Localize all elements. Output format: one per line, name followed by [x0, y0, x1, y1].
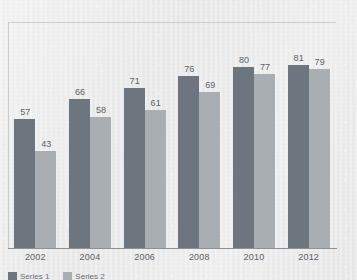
bar-value-label: 76 — [172, 64, 206, 74]
bar-group: 7669 — [178, 22, 220, 248]
legend-label: Series 2 — [75, 272, 104, 280]
bar-value-label: 77 — [248, 62, 282, 72]
category-axis: 200220042006200820102012 — [8, 252, 336, 266]
bar-value-label: 58 — [84, 105, 118, 115]
bar[interactable] — [199, 92, 220, 248]
bar-group: 5743 — [14, 22, 56, 248]
bar[interactable] — [309, 69, 330, 248]
chart-legend: Series 1Series 2 — [8, 272, 105, 280]
bar-group: 7161 — [124, 22, 166, 248]
legend-entry[interactable]: Series 2 — [63, 272, 104, 280]
bar-chart-figure: 574366587161766980778179 200220042006200… — [0, 0, 357, 280]
bar-value-label: 61 — [139, 98, 173, 108]
bar-value-label: 69 — [193, 80, 227, 90]
bar-value-label: 57 — [8, 107, 42, 117]
bar[interactable] — [35, 151, 56, 248]
bar[interactable] — [69, 99, 90, 248]
bar[interactable] — [178, 76, 199, 248]
bars-layer: 574366587161766980778179 — [8, 22, 336, 248]
bar-value-label: 79 — [303, 57, 337, 67]
x-axis-line — [8, 248, 337, 249]
category-tick-label: 2012 — [283, 252, 335, 262]
bar-value-label: 66 — [63, 87, 97, 97]
legend-label: Series 1 — [20, 272, 49, 280]
category-tick-label: 2006 — [119, 252, 171, 262]
bar[interactable] — [124, 88, 145, 248]
legend-swatch-icon — [8, 272, 17, 280]
bar[interactable] — [145, 110, 166, 248]
legend-swatch-icon — [63, 272, 72, 280]
category-tick-label: 2010 — [228, 252, 280, 262]
legend-entry[interactable]: Series 1 — [8, 272, 49, 280]
bar[interactable] — [233, 67, 254, 248]
category-tick-label: 2002 — [9, 252, 61, 262]
bar-value-label: 71 — [118, 76, 152, 86]
bar[interactable] — [90, 117, 111, 248]
category-tick-label: 2008 — [173, 252, 225, 262]
bar-value-label: 43 — [29, 139, 63, 149]
bar[interactable] — [254, 74, 275, 248]
bar-group: 6658 — [69, 22, 111, 248]
category-tick-label: 2004 — [64, 252, 116, 262]
bar-group: 8077 — [233, 22, 275, 248]
bar[interactable] — [288, 65, 309, 248]
bar-group: 8179 — [288, 22, 330, 248]
